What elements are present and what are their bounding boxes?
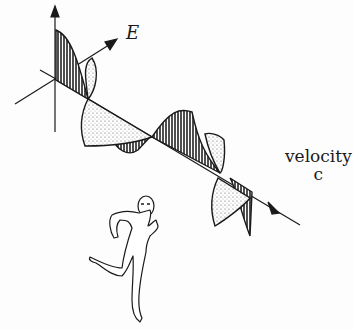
- velocity-symbol: c: [285, 165, 352, 183]
- em-wave-diagram: E velocity c: [0, 0, 353, 330]
- vertical-axis-arrow-icon: [51, 6, 59, 17]
- velocity-word: velocity: [285, 147, 352, 165]
- propagation-arrow-icon: [268, 202, 279, 214]
- running-man: [89, 196, 158, 322]
- depth-axis: [15, 79, 55, 104]
- e-axis-arrow-icon: [105, 39, 117, 50]
- velocity-label: velocity c: [285, 147, 352, 183]
- electric-field-label: E: [126, 22, 139, 43]
